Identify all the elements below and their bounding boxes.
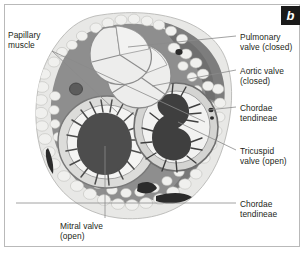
mitral-valve-orifice [77,113,132,175]
label-tricuspid-valve: Tricuspid valve (open) [240,146,287,167]
label-aortic-valve: Aortic valve (closed) [240,66,284,87]
label-mitral-valve: Mitral valve (open) [60,221,103,242]
label-chordae-tendineae-upper: Chordae tendineae [240,103,277,124]
figure-panel: Papillary muscle Pulmonary valve (closed… [0,0,306,257]
label-papillary-muscle: Papillary muscle [8,30,41,51]
papillary-muscle-nodule [70,83,83,95]
label-pulmonary-valve: Pulmonary valve (closed) [240,32,292,53]
specimen-body [34,13,231,219]
panel-label-badge: b [281,6,300,25]
label-chordae-tendineae-lower: Chordae tendineae [240,199,277,220]
